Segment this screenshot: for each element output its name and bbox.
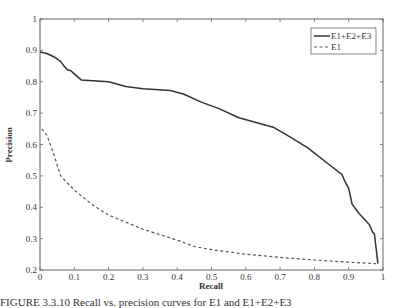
x-tick-label: 0.6 [240,272,252,282]
plot-area [40,19,383,270]
x-tick-label: 0.8 [309,272,321,282]
x-tick-label: 1 [381,272,386,282]
legend: E1+E2+E3 E1 [311,28,376,54]
x-tick-label: 0.2 [103,272,114,282]
x-tick-label: 0.7 [274,272,286,282]
y-tick-label: 0.3 [26,234,38,244]
x-tick-label: 0.1 [69,272,80,282]
y-axis-label: Precision [4,127,14,162]
y-tick-label: 0.4 [26,202,38,212]
y-tick-label: 0.6 [26,140,38,150]
figure-caption: FIGURE 3.3.10 Recall vs. precision curve… [0,296,292,308]
x-tick-label: 0 [38,272,43,282]
legend-label-e1: E1 [331,42,341,52]
y-tick-label: 1 [33,14,38,24]
y-tick-label: 0.2 [26,265,37,275]
x-tick-label: 0.9 [343,272,355,282]
y-tick-label: 0.9 [26,45,38,55]
x-tick-label: 0.4 [172,272,184,282]
y-tick-label: 0.8 [26,77,38,87]
y-tick-label: 0.5 [26,171,38,181]
x-axis-label: Recall [199,281,223,291]
legend-label-e1e2e3: E1+E2+E3 [331,31,372,41]
x-tick-label: 0.3 [137,272,149,282]
y-tick-label: 0.7 [26,108,38,118]
